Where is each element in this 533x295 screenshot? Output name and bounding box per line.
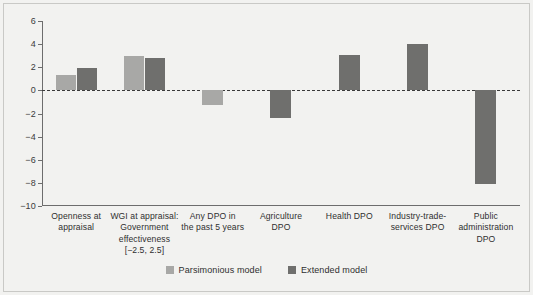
legend-item-extended-model[interactable]: Extended model [288,265,367,275]
category-label: WGI at appraisal:Governmenteffectiveness… [110,211,178,257]
bar-extended [475,90,496,184]
bar-extended [339,55,360,91]
y-tick-mark [38,206,42,207]
category-label: Any DPO inthe past 5 years [179,211,247,234]
category-label-line: Health DPO [315,211,383,222]
bar-parsimonious [124,56,144,91]
bar-group [247,21,315,206]
category-label-line: Industry-trade- [383,211,451,222]
legend-label: Extended model [301,265,367,275]
y-tick-label: −4 [25,132,36,142]
bar-parsimonious [56,75,76,90]
legend-label: Parsimonious model [179,265,262,275]
category-label-line: Government [110,222,178,233]
category-label: AgricultureDPO [247,211,315,234]
legend-swatch-icon [288,266,296,274]
category-label-line: WGI at appraisal: [110,211,178,222]
bar-extended [270,90,291,118]
legend-item-parsimonious-model[interactable]: Parsimonious model [166,265,262,275]
y-tick-label: −8 [25,178,36,188]
chart-legend: Parsimonious modelExtended model [0,265,533,275]
bar-group [110,21,178,206]
bar-extended [407,44,428,90]
y-tick-label: 0 [31,85,36,95]
category-label-line: Openness at [42,211,110,222]
x-axis-category-labels: Openness atappraisalWGI at appraisal:Gov… [42,211,520,271]
bar-parsimonious [202,90,223,105]
category-label-line: Any DPO in [179,211,247,222]
category-label-line: the past 5 years [179,222,247,233]
category-label-line: DPO [247,222,315,233]
y-tick-label: 2 [31,62,36,72]
category-label-line: Public [452,211,520,222]
legend-swatch-icon [166,266,174,274]
bar-chart-figure: 6420−2−4−6−8−10 Openness atappraisalWGI … [0,0,533,295]
bar-group [42,21,110,206]
category-label: Health DPO [315,211,383,222]
y-tick-label: −10 [20,201,36,211]
bar-group [452,21,520,206]
bar-group [179,21,247,206]
category-label-line: Agriculture [247,211,315,222]
bar-extended [77,68,97,90]
bar-group [383,21,451,206]
y-tick-label: 4 [31,39,36,49]
category-label-line: administration [452,222,520,233]
category-label: PublicadministrationDPO [452,211,520,245]
category-label-line: services DPO [383,222,451,233]
category-label: Openness atappraisal [42,211,110,234]
y-tick-label: 6 [31,16,36,26]
category-label-line: appraisal [42,222,110,233]
plot-area: 6420−2−4−6−8−10 [42,21,520,206]
y-tick-label: −6 [25,155,36,165]
bar-extended [145,58,165,90]
y-tick-label: −2 [25,109,36,119]
bar-group [315,21,383,206]
category-label-line: [−2.5, 2.5] [110,245,178,256]
category-label-line: effectiveness [110,234,178,245]
category-label: Industry-trade-services DPO [383,211,451,234]
category-label-line: DPO [452,234,520,245]
